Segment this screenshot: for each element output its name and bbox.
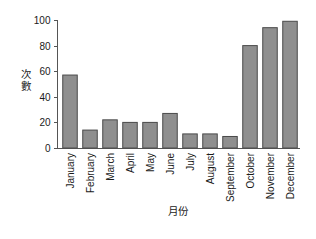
y-axis-title: 次數 — [21, 68, 32, 92]
bar — [243, 46, 258, 148]
bar-chart: 020406080100 次數 JanuaryFebruaryMarchApri… — [0, 0, 316, 239]
bar — [223, 136, 238, 148]
y-tick-label: 80 — [39, 41, 51, 52]
bar — [103, 120, 118, 148]
bar — [183, 134, 198, 148]
x-category-label: December — [285, 152, 296, 199]
x-category-label: October — [245, 152, 256, 188]
bar — [83, 130, 98, 148]
x-category-label: March — [105, 153, 116, 181]
x-category-label: July — [185, 153, 196, 171]
y-tick-label: 40 — [39, 92, 51, 103]
x-category-label: February — [85, 153, 96, 193]
y-tick-label: 100 — [34, 15, 51, 26]
bar — [63, 75, 78, 148]
y-tick-label: 20 — [39, 117, 51, 128]
x-category-label: September — [225, 152, 236, 202]
x-category-label: August — [205, 153, 216, 184]
x-category-label: June — [165, 153, 176, 175]
x-category-label: May — [145, 153, 156, 172]
x-category-label: January — [65, 153, 76, 189]
x-axis-title-label: 月份 — [168, 205, 189, 217]
bar — [143, 122, 158, 148]
bar — [283, 21, 298, 148]
y-axis-title-char: 次 — [21, 68, 32, 80]
bar — [203, 134, 218, 148]
y-tick-label: 0 — [45, 143, 51, 154]
bar — [163, 113, 178, 148]
x-category-label: April — [125, 153, 136, 173]
bar — [263, 28, 278, 148]
y-axis-title-char: 數 — [21, 80, 32, 92]
chart-canvas: 020406080100 次數 JanuaryFebruaryMarchApri… — [0, 0, 316, 239]
bar — [123, 122, 138, 148]
y-tick-label: 60 — [39, 66, 51, 77]
x-category-label: November — [265, 152, 276, 199]
